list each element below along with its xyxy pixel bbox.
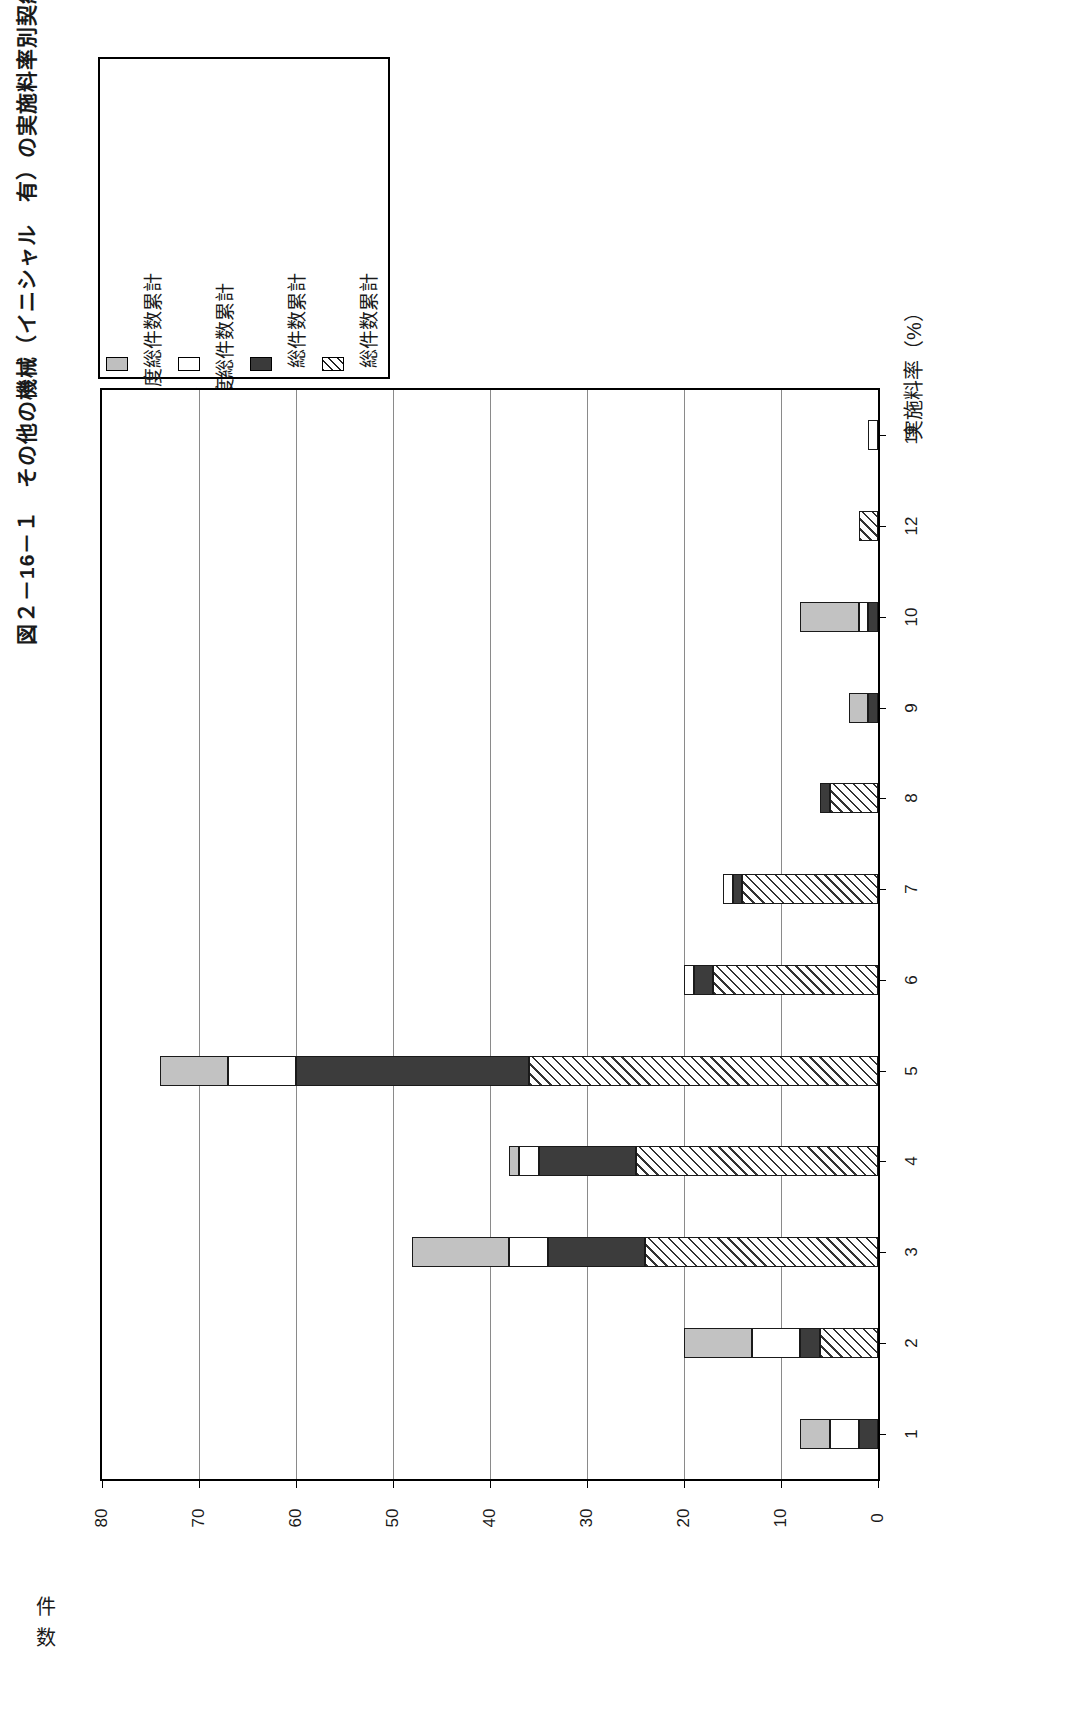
bar-segment bbox=[645, 1237, 878, 1267]
bar-segment bbox=[160, 1056, 228, 1086]
bar-segment bbox=[859, 511, 878, 541]
figure-title-container: 図２－16－１ その他の機械（イニシャル 有）の実施料率別契約件数 bbox=[0, 120, 60, 640]
value-axis-tick-mark bbox=[296, 1479, 297, 1488]
bar-group bbox=[412, 1237, 878, 1267]
bar-group bbox=[849, 693, 878, 723]
bar-group bbox=[723, 874, 878, 904]
bar-group bbox=[800, 1419, 878, 1449]
bar-segment bbox=[859, 1419, 878, 1449]
bar-group bbox=[800, 602, 878, 632]
value-axis-title: 件数 bbox=[36, 1592, 96, 1658]
category-axis-tick-mark bbox=[878, 798, 886, 799]
chart-legend: 平成4年度～平成10年度総件数累計昭和63年度～平成3年度総件数累計昭和49年～… bbox=[98, 57, 390, 379]
bar-segment bbox=[742, 874, 878, 904]
bar-segment bbox=[548, 1237, 645, 1267]
value-axis-tick-label: 30 bbox=[576, 1495, 598, 1541]
value-axis-tick-label: 20 bbox=[673, 1495, 695, 1541]
gridline bbox=[781, 390, 782, 1479]
bar-segment bbox=[859, 602, 869, 632]
category-axis-tick-mark bbox=[878, 980, 886, 981]
bar-segment bbox=[733, 874, 743, 904]
bar-segment bbox=[412, 1237, 509, 1267]
chart-plot-area bbox=[100, 388, 880, 1481]
category-axis-tick-label: 8 bbox=[901, 778, 923, 818]
bar-group bbox=[684, 1328, 878, 1358]
category-axis-tick-mark bbox=[878, 708, 886, 709]
bar-group bbox=[868, 420, 878, 450]
bar-segment bbox=[820, 1328, 878, 1358]
bar-segment bbox=[800, 1328, 819, 1358]
category-axis-tick-mark bbox=[878, 1071, 886, 1072]
bar-segment bbox=[723, 874, 733, 904]
bar-group bbox=[160, 1056, 878, 1086]
category-axis-tick-label: 1 bbox=[901, 1414, 923, 1454]
legend-item: ～平成10年度総件数累計 bbox=[136, 59, 172, 377]
bar-group bbox=[509, 1146, 878, 1176]
category-axis-tick-label: 4 bbox=[901, 1141, 923, 1181]
bar-segment bbox=[868, 602, 878, 632]
bar-segment bbox=[636, 1146, 879, 1176]
legend-item: ～昭和48年 総件数累計 bbox=[352, 59, 388, 377]
value-axis-tick-mark bbox=[781, 1479, 782, 1488]
bar-group bbox=[820, 783, 878, 813]
value-axis-tick-mark bbox=[878, 1479, 879, 1488]
gridline bbox=[393, 390, 394, 1479]
bar-segment bbox=[509, 1146, 519, 1176]
value-axis-tick-label: 60 bbox=[285, 1495, 307, 1541]
category-axis-tick-mark bbox=[878, 1161, 886, 1162]
category-axis-tick-mark bbox=[878, 435, 886, 436]
category-axis-tick-label: 12 bbox=[901, 506, 923, 546]
category-axis-tick-label: 9 bbox=[901, 688, 923, 728]
bar-segment bbox=[694, 965, 713, 995]
category-axis-title: 実施料率（%） bbox=[898, 210, 928, 440]
legend-item: 昭和63年度 bbox=[172, 59, 208, 377]
gridline bbox=[684, 390, 685, 1479]
value-axis-tick-mark bbox=[684, 1479, 685, 1488]
gridline bbox=[199, 390, 200, 1479]
bar-segment bbox=[539, 1146, 636, 1176]
bar-segment bbox=[830, 1419, 859, 1449]
category-axis-tick-label: 2 bbox=[901, 1323, 923, 1363]
value-axis-tick-label: 50 bbox=[382, 1495, 404, 1541]
value-axis-tick-label: 40 bbox=[479, 1495, 501, 1541]
category-axis-tick-label: 19 bbox=[901, 415, 923, 455]
bar-group bbox=[859, 511, 878, 541]
bar-segment bbox=[228, 1056, 296, 1086]
value-axis-tick-label: 70 bbox=[188, 1495, 210, 1541]
category-axis-tick-mark bbox=[878, 1343, 886, 1344]
value-axis-tick-mark bbox=[490, 1479, 491, 1488]
value-axis-tick-label: 10 bbox=[770, 1495, 792, 1541]
bar-segment bbox=[529, 1056, 878, 1086]
category-axis-tick-mark bbox=[878, 889, 886, 890]
legend-item: 昭和43年 bbox=[316, 59, 352, 377]
category-axis-tick-label: 7 bbox=[901, 869, 923, 909]
bar-group bbox=[684, 965, 878, 995]
category-axis-tick-label: 6 bbox=[901, 960, 923, 1000]
category-axis-tick-label: 3 bbox=[901, 1232, 923, 1272]
bar-segment bbox=[519, 1146, 538, 1176]
value-axis-tick-mark bbox=[587, 1479, 588, 1488]
legend-item: 昭和49年 bbox=[244, 59, 280, 377]
category-axis-tick-label: 5 bbox=[901, 1051, 923, 1091]
gridline bbox=[490, 390, 491, 1479]
bar-segment bbox=[509, 1237, 548, 1267]
bar-segment bbox=[296, 1056, 529, 1086]
category-axis-tick-mark bbox=[878, 1252, 886, 1253]
bar-segment bbox=[713, 965, 878, 995]
value-axis-tick-label: 0 bbox=[867, 1495, 889, 1541]
bar-segment bbox=[830, 783, 879, 813]
gridline bbox=[587, 390, 588, 1479]
bar-segment bbox=[849, 693, 868, 723]
bar-segment bbox=[820, 783, 830, 813]
category-axis-tick-mark bbox=[878, 617, 886, 618]
category-axis-tick-mark bbox=[878, 526, 886, 527]
value-axis-tick-label: 80 bbox=[91, 1495, 113, 1541]
legend-item: 平成4年度 bbox=[100, 59, 136, 377]
bar-segment bbox=[684, 1328, 752, 1358]
bar-segment bbox=[868, 420, 878, 450]
page-title: 図２－16－１ その他の機械（イニシャル 有）の実施料率別契約件数 bbox=[10, 125, 50, 645]
value-axis-tick-mark bbox=[102, 1479, 103, 1488]
bar-segment bbox=[800, 602, 858, 632]
bar-segment bbox=[868, 693, 878, 723]
legend-item: ～平成3年度総件数累計 bbox=[208, 59, 244, 377]
